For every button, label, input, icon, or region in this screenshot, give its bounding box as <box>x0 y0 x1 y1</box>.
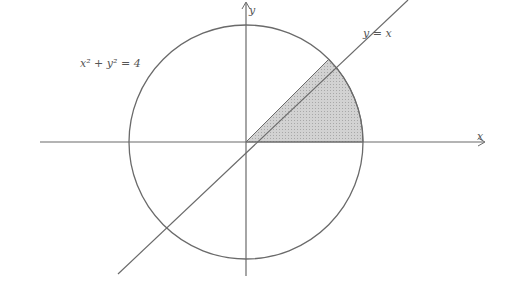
line-y-equals-x <box>118 0 408 274</box>
diagram-canvas: x² + y² = 4 y = x x y <box>0 0 512 290</box>
y-axis-label: y <box>248 4 256 17</box>
shaded-sector <box>246 59 363 142</box>
circle-equation-label: x² + y² = 4 <box>80 57 141 70</box>
line-equation-label: y = x <box>362 27 392 40</box>
x-axis-label: x <box>477 130 484 143</box>
